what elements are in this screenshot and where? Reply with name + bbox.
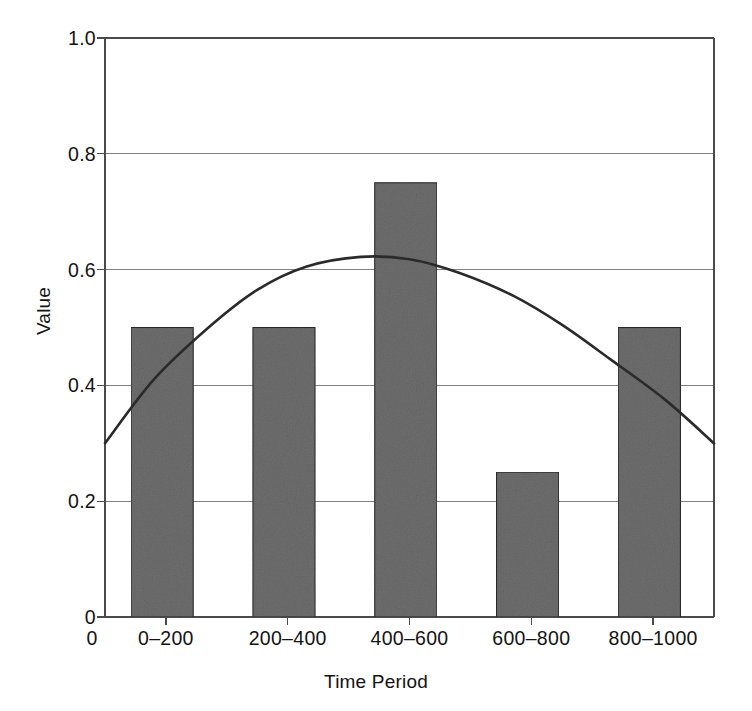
- chart-figure: Value 1.00.80.60.40.20 0 0–200200–400400…: [0, 0, 752, 711]
- bar-series: [131, 183, 680, 617]
- y-axis-ticks: [97, 38, 105, 617]
- bar: [253, 328, 315, 618]
- bar: [497, 472, 559, 617]
- x-axis-ticks: [166, 617, 653, 625]
- bar: [375, 183, 437, 617]
- plot-area: [0, 0, 752, 711]
